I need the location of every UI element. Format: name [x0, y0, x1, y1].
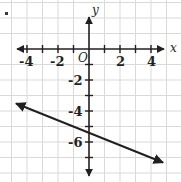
x-tick-label--2: -2 [50, 55, 64, 68]
y-tick-label--6: -6 [68, 136, 82, 149]
y-axis-label: y [92, 4, 99, 16]
graph-canvas [0, 0, 181, 182]
x-tick-label--4: -4 [19, 55, 33, 68]
coordinate-plane-figure: -4 -2 2 4 -2 -4 -6 O x y [0, 0, 181, 182]
y-tick-label--2: -2 [68, 74, 82, 87]
origin-label: O [78, 52, 88, 64]
x-axis-label: x [170, 42, 177, 54]
x-tick-label-4: 4 [147, 55, 156, 68]
y-tick-label--4: -4 [68, 105, 82, 118]
x-tick-label-2: 2 [116, 55, 125, 68]
